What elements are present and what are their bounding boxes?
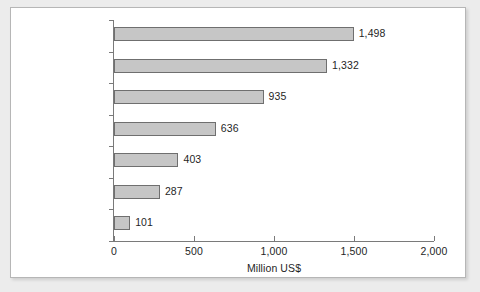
x-axis-tick-label: 2,000 (421, 245, 448, 257)
bar-value-label: 636 (221, 122, 239, 134)
clipped-text-strip (0, 0, 480, 6)
x-axis-tick (434, 236, 435, 241)
x-axis-tick-label: 0 (111, 245, 117, 257)
x-axis-tick (114, 236, 115, 241)
bar (114, 90, 264, 104)
y-axis-tick (109, 52, 113, 53)
y-axis-tick (109, 241, 113, 242)
bar-value-label: 935 (269, 90, 287, 102)
y-axis-tick (109, 209, 113, 210)
bar (114, 27, 354, 41)
bar-value-label: 1,498 (359, 27, 386, 39)
clipped-text-fragment (62, 0, 75, 3)
bar (114, 122, 216, 136)
bar-value-label: 1,332 (332, 59, 359, 71)
chart-panel: Athens 20041,498Sydney 20001,332Atlanta … (10, 7, 466, 278)
bar (114, 216, 130, 230)
x-axis-tick (354, 236, 355, 241)
y-axis-tick (109, 83, 113, 84)
x-axis-title: Million US$ (247, 262, 301, 274)
x-axis-tick (274, 236, 275, 241)
x-axis-tick-label: 1,500 (341, 245, 368, 257)
bar-value-label: 403 (183, 153, 201, 165)
bar-value-label: 101 (135, 216, 153, 228)
y-axis-tick (109, 178, 113, 179)
x-axis-tick-label: 500 (185, 245, 203, 257)
bar-value-label: 287 (165, 185, 183, 197)
x-axis-tick-label: 1,000 (261, 245, 288, 257)
bar-chart: Athens 20041,498Sydney 20001,332Atlanta … (11, 8, 467, 279)
y-axis-tick (109, 115, 113, 116)
x-axis-tick (194, 236, 195, 241)
bar (114, 59, 327, 73)
bar (114, 153, 178, 167)
bar (114, 185, 160, 199)
y-axis-tick (109, 146, 113, 147)
x-axis-line (113, 241, 434, 242)
y-axis-tick (109, 20, 113, 21)
